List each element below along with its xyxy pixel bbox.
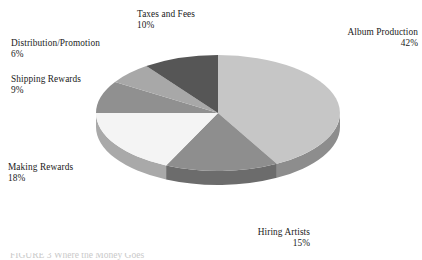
- chart-plot-area: Taxes and Fees 10% Album Production 42% …: [0, 0, 422, 260]
- pie-label-taxes-and-fees-percent: 10%: [137, 20, 195, 31]
- pie-label-shipping-rewards-name: Shipping Rewards: [11, 74, 81, 85]
- pie-label-hiring-artists-percent: 15%: [120, 238, 310, 249]
- pie-label-album-production: Album Production 42%: [222, 27, 418, 50]
- pie-label-hiring-artists: Hiring Artists 15%: [120, 227, 310, 250]
- pie-label-making-rewards: Making Rewards 18%: [8, 162, 73, 185]
- pie-label-taxes-and-fees: Taxes and Fees 10%: [137, 9, 195, 32]
- pie-label-hiring-artists-name: Hiring Artists: [120, 227, 310, 238]
- figure-caption-cutoff: FIGURE 3 Where the Money Goes: [10, 253, 200, 260]
- pie-chart-figure: Taxes and Fees 10% Album Production 42% …: [0, 0, 422, 260]
- pie-label-shipping-rewards-percent: 9%: [11, 85, 81, 96]
- pie-label-distribution-promotion-name: Distribution/Promotion: [11, 38, 100, 49]
- pie-label-making-rewards-name: Making Rewards: [8, 162, 73, 173]
- pie-label-making-rewards-percent: 18%: [8, 173, 73, 184]
- pie-label-shipping-rewards: Shipping Rewards 9%: [11, 74, 81, 97]
- pie-label-taxes-and-fees-name: Taxes and Fees: [137, 9, 195, 20]
- pie-label-distribution-promotion: Distribution/Promotion 6%: [11, 38, 100, 61]
- pie-label-album-production-percent: 42%: [222, 38, 418, 49]
- pie-label-distribution-promotion-percent: 6%: [11, 49, 100, 60]
- pie-slices: [96, 55, 340, 171]
- pie-label-album-production-name: Album Production: [222, 27, 418, 38]
- figure-caption-text: FIGURE 3 Where the Money Goes: [10, 253, 200, 260]
